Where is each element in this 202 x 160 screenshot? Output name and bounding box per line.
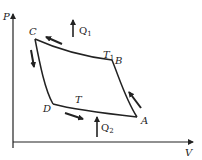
q1-label: Q1 bbox=[79, 25, 92, 38]
v-axis-label: V bbox=[185, 147, 194, 158]
adiabat-left bbox=[35, 39, 53, 104]
p-axis-label: P bbox=[2, 11, 10, 22]
heat-arrows bbox=[73, 20, 97, 137]
labels: C B D A T1 T Q1 Q2 bbox=[29, 25, 148, 135]
arrow-down-icon bbox=[31, 50, 34, 67]
q2-label: Q2 bbox=[101, 122, 114, 135]
arrow-left-icon bbox=[46, 37, 62, 44]
temp-lower-label: T bbox=[75, 94, 83, 105]
isotherm-upper bbox=[35, 39, 112, 60]
isotherm-lower bbox=[53, 104, 137, 117]
point-c-label: C bbox=[29, 26, 37, 37]
point-d-label: D bbox=[42, 103, 51, 114]
point-b-label: B bbox=[114, 55, 122, 66]
pv-diagram: P V C B D A T1 T Q1 Q bbox=[0, 0, 202, 160]
adiabat-right bbox=[112, 60, 137, 117]
arrow-right-icon bbox=[65, 113, 83, 119]
point-a-label: A bbox=[140, 115, 148, 126]
